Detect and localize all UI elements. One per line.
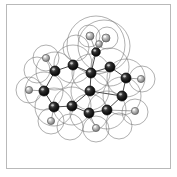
atom-c-c4 — [105, 62, 115, 72]
atom-c-c1 — [50, 66, 60, 76]
atom-specular-highlight — [88, 70, 91, 72]
atom-h-h7 — [86, 32, 94, 40]
figure-frame — [0, 0, 177, 177]
atom-h-h2 — [25, 86, 32, 93]
atom-c-c7 — [102, 105, 112, 115]
molecular-structure-diagram — [0, 0, 177, 177]
atom-c-c3 — [86, 68, 96, 78]
atom-specular-highlight — [27, 88, 29, 90]
atom-c-c13 — [92, 48, 101, 57]
atom-specular-highlight — [93, 50, 96, 52]
atom-h-h6 — [137, 75, 144, 82]
atom-c-c9 — [67, 101, 77, 111]
atom-c-c8 — [84, 108, 94, 118]
atom-c-c10 — [49, 102, 59, 112]
atom-h-h1 — [42, 54, 49, 61]
atom-c-c5 — [121, 73, 131, 83]
atom-specular-highlight — [44, 56, 46, 58]
atom-c-c2 — [68, 60, 78, 70]
atom-h-h3 — [47, 117, 54, 124]
atom-specular-highlight — [97, 42, 99, 43]
atom-specular-highlight — [86, 110, 89, 112]
atom-c-c11 — [39, 86, 49, 96]
atom-layer — [25, 32, 144, 132]
atom-specular-highlight — [88, 34, 90, 36]
atom-h-h5 — [131, 107, 138, 114]
vdw-sphere-outline — [78, 20, 130, 72]
atom-specular-highlight — [49, 119, 51, 121]
atom-specular-highlight — [69, 103, 72, 105]
atom-c-c6 — [117, 91, 127, 101]
vdw-sphere-outline — [57, 114, 83, 140]
atom-specular-highlight — [70, 62, 73, 64]
atom-specular-highlight — [107, 64, 110, 66]
atom-h-h9 — [96, 41, 103, 48]
vdw-surface-outlines — [16, 16, 155, 142]
atom-specular-highlight — [104, 107, 107, 109]
atom-specular-highlight — [41, 88, 44, 90]
atom-specular-highlight — [133, 109, 135, 111]
atom-specular-highlight — [139, 77, 141, 79]
atom-specular-highlight — [52, 68, 55, 70]
atom-specular-highlight — [51, 104, 54, 106]
vdw-sphere-outline — [106, 113, 132, 139]
atom-h-h8 — [102, 34, 110, 42]
atom-specular-highlight — [119, 93, 122, 95]
atom-h-h4 — [92, 124, 99, 131]
atom-specular-highlight — [94, 126, 96, 128]
atom-specular-highlight — [104, 36, 106, 38]
atom-specular-highlight — [123, 75, 126, 77]
atom-specular-highlight — [87, 88, 90, 90]
atom-c-c12 — [85, 86, 95, 96]
